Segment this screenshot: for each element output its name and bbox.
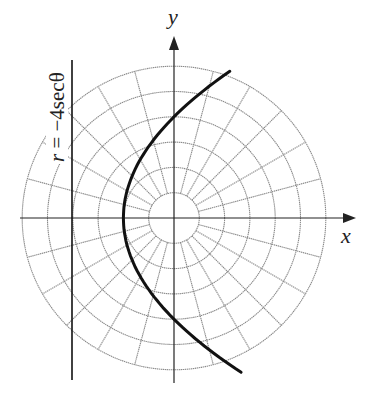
x-axis-arrow-icon <box>343 213 356 223</box>
parabola-curve <box>123 71 241 372</box>
y-axis-arrow-icon <box>169 36 179 50</box>
grid-spoke <box>181 242 214 364</box>
x-axis-label: x <box>340 223 351 248</box>
equation-label: r = −4secθ <box>45 64 69 164</box>
grid-spoke <box>198 179 320 212</box>
grid-spoke <box>27 225 149 258</box>
grid-spoke <box>181 71 214 193</box>
grid-spoke <box>27 179 149 212</box>
grid-spoke <box>135 242 168 364</box>
grid-spoke <box>192 236 281 325</box>
grid-spoke <box>198 225 320 258</box>
polar-graph: x y r = −4secθ <box>0 0 369 403</box>
grid-spoke <box>135 71 168 193</box>
svg-text:r = −4secθ: r = −4secθ <box>45 72 69 162</box>
y-axis-label: y <box>166 4 178 29</box>
equation-rhs: = −4secθ <box>45 72 69 154</box>
grid-spoke <box>192 111 281 200</box>
